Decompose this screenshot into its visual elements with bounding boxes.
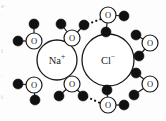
- water-top-center-hydrogen-1: [56, 19, 66, 29]
- water-top-left-outer-oxygen-label: O: [31, 36, 37, 46]
- water-top-left-outer-hydrogen-1: [13, 36, 23, 46]
- water-bottom-center-oxygen-label: O: [69, 79, 75, 89]
- water-bottom-right-hydrogen-2: [102, 85, 112, 95]
- water-bottom-center-hydrogen-2: [78, 91, 88, 101]
- water-right-lower-hydrogen-2: [129, 90, 139, 100]
- water-top-right-oxygen-label: O: [105, 10, 111, 20]
- water-bottom-right-hydrogen-1: [119, 100, 129, 110]
- sodium-charge-superscript: +: [61, 52, 65, 61]
- water-right-upper-oxygen-label: O: [147, 38, 153, 48]
- molecular-diagram-canvas: OOOOOOOONa+Cl−: [0, 0, 166, 121]
- water-top-right-hydrogen-1: [119, 11, 129, 21]
- water-right-lower-hydrogen-1: [131, 68, 141, 78]
- water-top-center-oxygen-label: O: [69, 33, 75, 43]
- water-bottom-left-outer-hydrogen-1: [13, 79, 23, 89]
- water-bottom-right-oxygen-label: O: [105, 100, 111, 110]
- water-top-left-outer-hydrogen-2: [29, 19, 39, 29]
- water-bottom-left-outer-hydrogen-2: [30, 95, 40, 105]
- water-right-upper-hydrogen-1: [131, 30, 141, 40]
- water-top-center-hydrogen-2: [79, 20, 89, 30]
- water-right-lower-oxygen-label: O: [147, 79, 153, 89]
- hbond-bottom-dotted-line: [87, 97, 100, 103]
- hydration-diagram-figure: e · l . i OOOOOOOONa+Cl−: [0, 0, 166, 121]
- hbond-top-dotted-line: [88, 19, 101, 24]
- water-bottom-left-outer-oxygen-label: O: [31, 80, 37, 90]
- water-bottom-center-hydrogen-1: [54, 91, 64, 101]
- water-right-upper-hydrogen-2: [134, 51, 144, 61]
- chloride-charge-superscript: −: [111, 52, 115, 61]
- water-top-right-hydrogen-2: [101, 27, 111, 37]
